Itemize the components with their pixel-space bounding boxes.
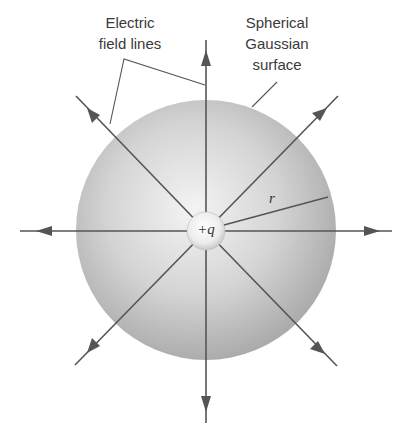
arrowhead-down-right-icon bbox=[310, 341, 325, 354]
arrowhead-left-icon bbox=[36, 226, 52, 236]
arrowhead-up-right-icon bbox=[312, 108, 327, 121]
field-lines-label: Electric field lines bbox=[80, 12, 180, 54]
gauss-law-diagram: Electric field lines Spherical Gaussian … bbox=[0, 0, 417, 434]
radius-label: r bbox=[269, 190, 275, 207]
diagram-canvas bbox=[0, 0, 417, 434]
field-lines-label-line1: Electric bbox=[80, 12, 180, 33]
arrowhead-down-left-icon bbox=[87, 338, 100, 353]
gaussian-surface-label: Spherical Gaussian surface bbox=[232, 12, 322, 75]
arrowhead-up-icon bbox=[201, 50, 211, 66]
arrowhead-right-icon bbox=[364, 226, 380, 236]
surface-leader bbox=[252, 82, 277, 107]
surface-label-line1: Spherical bbox=[232, 12, 322, 33]
arrowhead-up-left-icon bbox=[87, 108, 100, 123]
surface-label-line2: Gaussian bbox=[232, 33, 322, 54]
arrowhead-down-icon bbox=[201, 396, 211, 412]
surface-label-line3: surface bbox=[232, 54, 322, 75]
charge-label: +q bbox=[190, 221, 222, 238]
field-lines-label-line2: field lines bbox=[80, 33, 180, 54]
